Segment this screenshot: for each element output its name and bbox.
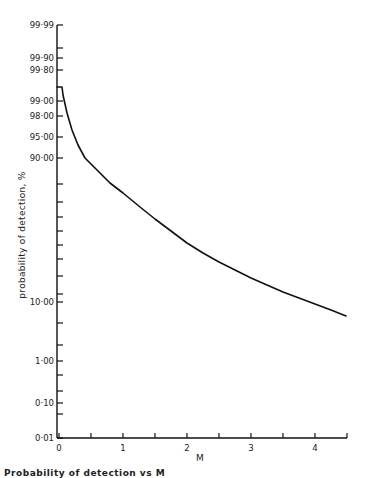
y-axis-title: probability of detection, % xyxy=(17,171,27,298)
x-axis: 01234 xyxy=(56,433,347,453)
x-axis-title: M xyxy=(196,453,204,463)
x-tick-label: 1 xyxy=(120,443,125,453)
y-tick-label: 10·00 xyxy=(30,297,54,307)
y-tick-label: 0·01 xyxy=(35,433,54,443)
x-tick-label: 4 xyxy=(312,443,317,453)
y-tick-label: 99·90 xyxy=(30,53,54,63)
detection-probability-curve xyxy=(57,87,346,316)
y-tick-label: 0·10 xyxy=(35,398,54,408)
x-tick-label: 2 xyxy=(184,443,189,453)
y-tick-label: 95·00 xyxy=(30,132,54,142)
y-tick-label: 1·00 xyxy=(35,356,54,366)
y-tick-label: 99·00 xyxy=(30,96,54,106)
y-tick-label: 99·99 xyxy=(30,20,54,30)
x-tick-label: 3 xyxy=(248,443,253,453)
figure-caption: Probability of detection vs M xyxy=(4,468,165,478)
y-axis: 99·9999·9099·8099·0098·0095·0090·0010·00… xyxy=(30,20,63,443)
y-tick-label: 98·00 xyxy=(30,111,54,121)
y-tick-label: 90·00 xyxy=(30,153,54,163)
y-tick-label: 99·80 xyxy=(30,65,54,75)
x-tick-label: 0 xyxy=(56,443,61,453)
